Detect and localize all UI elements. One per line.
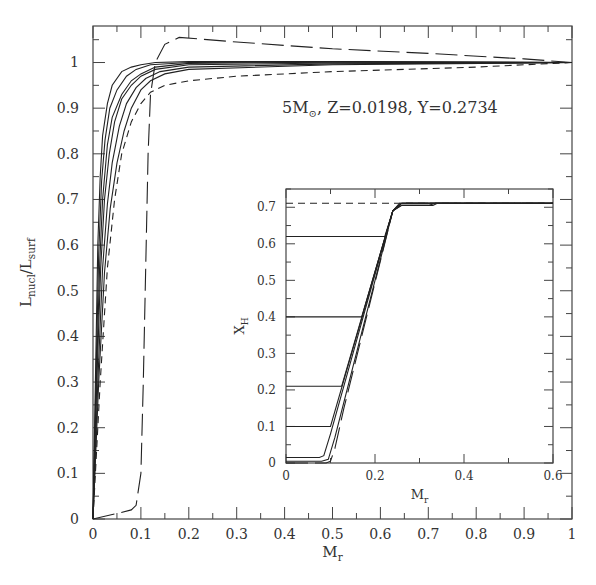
y-tick-label: 0.7 [257,200,276,214]
main-y-axis-label: Lnucl/Lsurf [17,237,37,307]
series-XH-0.0 [286,203,553,463]
chart-annotation: 5M⊙, Z=0.0198, Y=0.2734 [282,98,498,119]
x-tick-label: 0.2 [178,526,200,542]
y-tick-label: 0.1 [257,420,276,434]
y-tick-label: 0 [268,456,276,470]
x-tick-label: 0.9 [513,526,535,542]
x-tick-label: 0.5 [321,526,343,542]
y-tick-label: 0.5 [257,274,276,288]
series-XH-0.21 [286,203,553,386]
main-x-axis-label: Mr [322,543,343,563]
y-tick-label: 0.3 [57,374,79,390]
series-XH-0.005 [286,203,553,461]
x-tick-label: 0.3 [226,526,248,542]
series-solid-6 [93,63,572,520]
series-XH-0.40 [286,203,553,317]
x-tick-label: 0.4 [454,469,473,483]
series-XH-0.62 [286,203,553,236]
y-tick-label: 1 [70,54,79,70]
y-tick-label: 0.2 [57,420,79,436]
x-tick-label: 0.4 [273,526,295,542]
inset-plot-frame [286,189,553,463]
y-tick-label: 0.4 [57,328,79,344]
series-solid-2 [93,62,572,519]
x-tick-label: 1 [568,526,577,542]
x-tick-label: 0.6 [369,526,391,542]
inset-curves [286,203,553,463]
inset-plot: 00.20.40.600.10.20.30.40.50.60.7 Mr XH [232,189,563,505]
series-XH-0.015 [286,203,553,457]
y-tick-label: 0.1 [57,465,79,481]
x-tick-label: 0.6 [543,469,562,483]
x-tick-label: 0 [282,469,290,483]
y-tick-label: 0.9 [57,100,79,116]
x-tick-label: 0.2 [365,469,384,483]
y-tick-label: 0.8 [57,146,79,162]
series-solid-1 [93,62,572,519]
series-solid-5 [93,63,572,520]
y-tick-label: 0.5 [57,283,79,299]
y-tick-label: 0.4 [257,310,276,324]
main-plot: 00.10.20.30.40.50.60.70.80.9100.10.20.30… [17,26,576,563]
series-solid-3 [93,62,572,519]
series-solid-4 [93,63,572,520]
x-tick-label: 0.1 [130,526,152,542]
chart: 00.10.20.30.40.50.60.70.80.9100.10.20.30… [0,0,596,585]
y-tick-label: 0.6 [257,237,276,251]
y-tick-label: 0.6 [57,237,79,253]
x-tick-label: 0 [89,526,98,542]
inset-y-axis-label: XH [232,317,250,334]
x-tick-label: 0.8 [465,526,487,542]
y-tick-label: 0.7 [57,191,79,207]
inset-x-axis-label: Mr [411,487,429,505]
y-tick-label: 0 [70,511,79,527]
series-short-dash [93,63,572,520]
y-tick-label: 0.2 [257,383,276,397]
inset-ticks: 00.20.40.600.10.20.30.40.50.60.7 [257,189,563,483]
y-tick-label: 0.3 [257,347,276,361]
x-tick-label: 0.7 [417,526,439,542]
